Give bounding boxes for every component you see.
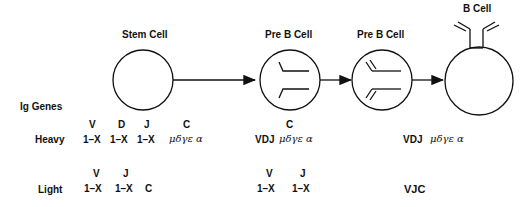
preb-heavy-vdj: VDJ <box>255 134 274 145</box>
bcell-heavy-constant: μδγε α <box>430 133 464 144</box>
heavy-chain-icon <box>279 62 309 98</box>
heavy-seg-v: V <box>89 119 96 130</box>
bcell-light-vjc: VJC <box>404 183 425 195</box>
preb-light-seg-v: V <box>266 168 273 179</box>
heavy-seg-j: J <box>144 119 150 130</box>
preb-heavy-seg-c: C <box>286 119 293 130</box>
heavy-seg-c: C <box>183 119 190 130</box>
diagram-art <box>0 0 521 207</box>
stage-label-stem: Stem Cell <box>122 29 168 40</box>
surface-antibody-icon <box>454 22 499 48</box>
antibody-icon <box>366 60 401 100</box>
preb-heavy-constant: μδγε α <box>279 133 313 144</box>
heavy-j-range: 1–X <box>137 134 155 145</box>
preb-cell-1-circle <box>260 50 320 110</box>
light-row-label: Light <box>38 184 62 195</box>
preb-cell-2-circle <box>352 50 412 110</box>
ig-genes-header: Ig Genes <box>20 101 62 112</box>
stage-label-preb-2: Pre B Cell <box>357 29 404 40</box>
preb-light-j-range: 1–X <box>292 183 310 194</box>
heavy-d-range: 1–X <box>110 134 128 145</box>
stage-label-bcell: B Cell <box>463 3 491 14</box>
light-v-range: 1–X <box>84 183 102 194</box>
light-constant: C <box>145 183 152 194</box>
heavy-constant-genes: μδγε α <box>169 133 203 144</box>
light-seg-j: J <box>123 168 129 179</box>
b-cell-circle <box>445 47 513 115</box>
heavy-row-label: Heavy <box>35 134 64 145</box>
preb-light-seg-j: J <box>300 168 306 179</box>
heavy-seg-d: D <box>118 119 125 130</box>
light-j-range: 1–X <box>115 183 133 194</box>
bcell-heavy-vdj: VDJ <box>403 134 422 145</box>
preb-light-v-range: 1–X <box>257 183 275 194</box>
stem-cell-circle <box>113 50 173 110</box>
heavy-v-range: 1–X <box>83 134 101 145</box>
stage-label-preb-1: Pre B Cell <box>265 29 312 40</box>
light-seg-v: V <box>93 168 100 179</box>
